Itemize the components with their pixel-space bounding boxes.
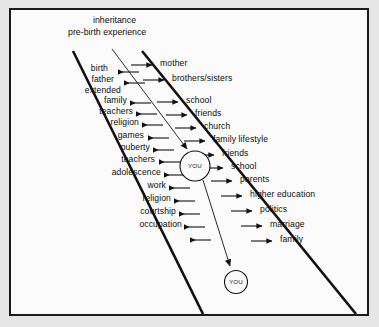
- left-label-extended: extended: [85, 85, 121, 95]
- left-label-father: father: [91, 74, 114, 84]
- right-label-politics: politics: [260, 204, 287, 214]
- diagram-canvas: YOU YOU: [11, 10, 367, 314]
- you-node-lower: YOU: [225, 271, 248, 294]
- left-label-adolescence: adolescence: [112, 167, 161, 177]
- diagram-frame: YOU YOU inheritance pre-birth experience…: [9, 8, 369, 316]
- left-label-courtship: courtship: [140, 206, 176, 216]
- left-label-family: family: [104, 95, 127, 105]
- header-inheritance: inheritance: [93, 15, 136, 25]
- life-path-lower: [203, 180, 230, 266]
- right-label-higher-education: higher education: [250, 189, 315, 199]
- right-label-school-2: school: [231, 161, 256, 171]
- left-label-teachers-1: teachers: [99, 106, 133, 116]
- right-label-parents: parents: [240, 174, 269, 184]
- you-node-upper: YOU: [180, 151, 210, 181]
- right-label-friends-2: friends: [222, 148, 249, 158]
- left-label-religion-1: religion: [110, 117, 139, 127]
- you-node-lower-label: YOU: [229, 278, 243, 285]
- left-label-religion-2: religion: [142, 193, 171, 203]
- left-label-work: work: [147, 180, 166, 190]
- left-label-occupation: occupation: [139, 219, 182, 229]
- right-label-friends-1: friends: [195, 108, 222, 118]
- right-label-family-lifestyle: family lifestyle: [213, 134, 268, 144]
- right-label-marriage: marriage: [270, 219, 305, 229]
- left-label-games: games: [118, 130, 144, 140]
- right-label-family: family: [280, 234, 303, 244]
- diagram-page: YOU YOU inheritance pre-birth experience…: [0, 0, 379, 327]
- right-label-church: church: [204, 121, 230, 131]
- right-label-school-1: school: [186, 95, 211, 105]
- right-label-brothers-sisters: brothers/sisters: [172, 73, 232, 83]
- left-label-birth: birth: [91, 63, 108, 73]
- left-label-teachers-2: teachers: [121, 154, 155, 164]
- you-node-upper-label: YOU: [188, 162, 202, 169]
- header-pre-birth-experience: pre-birth experience: [68, 27, 146, 37]
- right-label-mother: mother: [160, 58, 187, 68]
- left-label-puberty: puberty: [121, 142, 150, 152]
